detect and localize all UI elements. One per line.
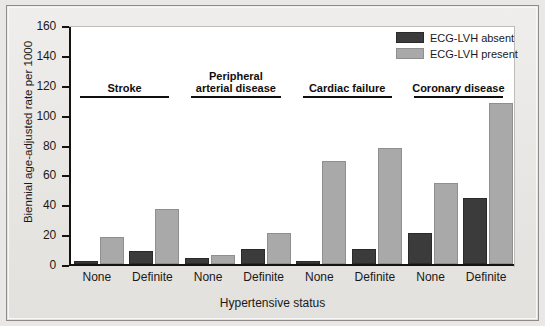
x-tick-label: None <box>289 270 349 284</box>
bar <box>211 255 235 264</box>
y-tick-label: 160 <box>26 19 56 33</box>
legend-label: ECG-LVH present <box>430 48 518 60</box>
legend-label: ECG-LVH absent <box>430 32 514 44</box>
group-header-rule <box>414 96 503 98</box>
bar <box>100 237 124 264</box>
y-tick-mark <box>62 116 69 118</box>
legend-item-ecg-lvh-present: ECG-LVH present <box>396 47 518 60</box>
x-tick-label: Definite <box>122 270 182 284</box>
group-header-line: Cardiac failure <box>298 82 397 94</box>
group-header-line: Coronary disease <box>409 82 508 94</box>
x-tick-label: Definite <box>234 270 294 284</box>
legend-swatch-light-icon <box>396 48 424 59</box>
y-tick-label: 140 <box>26 49 56 63</box>
bar <box>129 251 153 264</box>
x-tick-label: None <box>67 270 127 284</box>
y-tick-mark <box>62 26 69 28</box>
y-tick-mark <box>62 86 69 88</box>
bar <box>322 161 346 264</box>
group-header-line: arterial disease <box>186 82 285 94</box>
bar <box>434 183 458 264</box>
group-header-rule <box>80 96 169 98</box>
group-header: Cardiac failure <box>298 82 397 94</box>
group-header-line: Stroke <box>75 82 174 94</box>
y-tick-label: 100 <box>26 109 56 123</box>
bar <box>463 198 487 264</box>
y-tick-label: 120 <box>26 79 56 93</box>
group-header-rule <box>303 96 392 98</box>
bar <box>241 249 265 264</box>
chart-figure: Biennial age-adjusted rate per 1000 0204… <box>0 0 545 326</box>
legend-swatch-dark-icon <box>396 32 424 43</box>
bar <box>267 233 291 264</box>
y-tick-label: 0 <box>26 258 56 272</box>
y-tick-mark <box>62 235 69 237</box>
bar <box>489 103 513 264</box>
bar <box>296 261 320 264</box>
group-header: Stroke <box>75 82 174 94</box>
group-header: Peripheralarterial disease <box>186 70 285 94</box>
y-tick-mark <box>62 146 69 148</box>
legend-item-ecg-lvh-absent: ECG-LVH absent <box>396 31 518 44</box>
y-tick-label: 40 <box>26 198 56 212</box>
bar <box>74 261 98 264</box>
bar <box>185 258 209 264</box>
x-tick-label: Definite <box>345 270 405 284</box>
x-tick-label: None <box>401 270 461 284</box>
x-tick-label: None <box>178 270 238 284</box>
x-tick-label: Definite <box>456 270 516 284</box>
bar <box>408 233 432 264</box>
x-axis-title: Hypertensive status <box>0 296 545 310</box>
y-tick-label: 80 <box>26 139 56 153</box>
y-tick-mark <box>62 56 69 58</box>
y-tick-label: 20 <box>26 228 56 242</box>
y-tick-mark <box>62 205 69 207</box>
y-tick-mark <box>62 265 69 267</box>
bar <box>155 209 179 264</box>
group-header-rule <box>191 96 280 98</box>
y-tick-mark <box>62 175 69 177</box>
group-header: Coronary disease <box>409 82 508 94</box>
bar <box>378 148 402 265</box>
y-tick-label: 60 <box>26 168 56 182</box>
group-header-line: Peripheral <box>186 70 285 82</box>
chart-legend: ECG-LVH absent ECG-LVH present <box>396 31 518 63</box>
bar <box>352 249 376 264</box>
